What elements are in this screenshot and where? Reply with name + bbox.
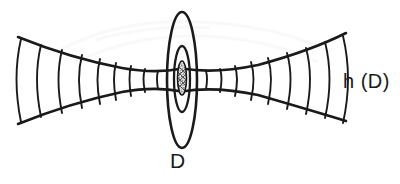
hyperboloid-diagram-svg xyxy=(0,0,400,184)
figure-canvas: D h (D) xyxy=(0,0,400,184)
disk-label: D xyxy=(170,150,186,171)
surface-label: h (D) xyxy=(343,71,390,91)
